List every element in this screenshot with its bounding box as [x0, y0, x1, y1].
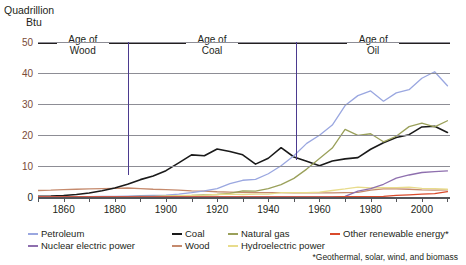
y-axis-title-line1: Quadrillion	[4, 4, 54, 16]
legend-swatch	[330, 233, 340, 235]
x-axis-tick-label: 1880	[104, 204, 126, 215]
y-axis-tick-label: 0	[27, 192, 33, 203]
legend-label: Petroleum	[41, 228, 84, 239]
series-line	[38, 121, 447, 197]
legend-item: Wood	[172, 240, 210, 251]
x-axis-tick-label: 1940	[257, 204, 279, 215]
legend-swatch	[228, 233, 238, 235]
era-divider-line	[296, 42, 297, 160]
y-axis-tick-label: 10	[22, 161, 33, 172]
y-axis-title-line2: Btu	[4, 16, 54, 28]
legend-swatch	[28, 233, 38, 235]
x-axis: 18601880190019201940196019802000	[38, 197, 450, 223]
legend-label: Coal	[185, 228, 205, 239]
era-divider-line	[128, 42, 129, 175]
legend-label: Other renewable energy*	[343, 228, 449, 239]
gridline: 50	[38, 42, 450, 43]
x-axis-tick	[89, 198, 90, 202]
x-axis-tick	[140, 198, 141, 202]
x-axis-tick	[38, 198, 39, 202]
x-axis-tick	[294, 198, 295, 202]
x-axis-baseline	[38, 197, 450, 199]
y-axis-tick-label: 20	[22, 130, 33, 141]
x-axis-tick-label: 2000	[411, 204, 433, 215]
x-axis-tick-label: 1960	[308, 204, 330, 215]
legend-item: Other renewable energy*	[330, 228, 449, 239]
x-axis-tick	[243, 198, 244, 202]
legend-item: Hydroelectric power	[228, 240, 325, 251]
series-lines	[38, 42, 450, 197]
x-axis-tick	[192, 198, 193, 202]
legend-swatch	[228, 245, 238, 247]
x-axis-tick-label: 1920	[206, 204, 228, 215]
x-axis-tick	[422, 198, 423, 202]
legend-label: Nuclear electric power	[41, 240, 135, 251]
x-axis-tick-label: 1900	[155, 204, 177, 215]
x-axis-tick	[115, 198, 116, 202]
legend-item: Coal	[172, 228, 205, 239]
gridline: 30	[38, 104, 450, 105]
y-axis-title: Quadrillion Btu	[4, 4, 54, 28]
x-axis-tick	[371, 198, 372, 202]
energy-consumption-chart: Quadrillion Btu Age ofWoodAge ofCoalAge …	[0, 0, 466, 265]
x-axis-tick	[166, 198, 167, 202]
y-axis-tick-label: 50	[22, 37, 33, 48]
x-axis-tick-label: 1980	[360, 204, 382, 215]
x-axis-tick	[64, 198, 65, 202]
x-axis-tick	[319, 198, 320, 202]
gridline: 20	[38, 135, 450, 136]
y-axis-tick-label: 30	[22, 99, 33, 110]
legend: *Geothermal, solar, wind, and biomass Pe…	[0, 228, 466, 265]
legend-label: Natural gas	[241, 228, 290, 239]
legend-item: Nuclear electric power	[28, 240, 135, 251]
series-line	[38, 126, 447, 196]
legend-swatch	[172, 245, 182, 247]
legend-item: Petroleum	[28, 228, 84, 239]
gridline: 40	[38, 73, 450, 74]
x-axis-tick	[217, 198, 218, 202]
gridline: 10	[38, 166, 450, 167]
legend-swatch	[172, 233, 182, 235]
x-axis-tick	[268, 198, 269, 202]
series-line	[38, 171, 447, 197]
x-axis-tick	[396, 198, 397, 202]
plot-area: 01020304050	[38, 42, 450, 197]
x-axis-tick	[447, 198, 448, 202]
legend-item: Natural gas	[228, 228, 290, 239]
y-axis-tick-label: 40	[22, 68, 33, 79]
x-axis-tick-label: 1860	[52, 204, 74, 215]
legend-swatch	[28, 245, 38, 247]
footnote: *Geothermal, solar, wind, and biomass	[312, 252, 458, 262]
legend-label: Hydroelectric power	[241, 240, 325, 251]
legend-label: Wood	[185, 240, 210, 251]
x-axis-tick	[345, 198, 346, 202]
